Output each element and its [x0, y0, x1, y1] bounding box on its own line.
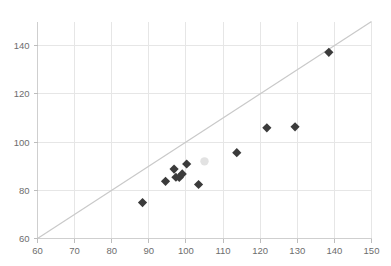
x-tick-label: 110	[215, 245, 230, 256]
identity-reference-line	[38, 22, 372, 239]
y-axis-tick-labels: 6080100120140	[14, 40, 30, 244]
plot-canvas: 60708090100110120130140150 6080100120140	[0, 0, 391, 266]
x-tick-label: 80	[106, 245, 117, 256]
x-tick-label: 150	[364, 245, 380, 256]
y-tick-label: 100	[14, 137, 30, 148]
y-tick-label: 60	[19, 233, 30, 244]
data-point-marker	[169, 164, 178, 173]
x-tick-label: 90	[144, 245, 155, 256]
x-tick-label: 120	[252, 245, 268, 256]
x-tick-label: 100	[178, 245, 194, 256]
data-point-marker	[324, 48, 333, 57]
data-point-marker	[232, 148, 241, 157]
data-point-marker	[290, 122, 299, 131]
data-point-marker	[161, 177, 170, 186]
reference-line-group	[38, 22, 372, 239]
y-tick-label: 80	[19, 185, 30, 196]
y-tick-label: 120	[14, 88, 30, 99]
data-point-marker	[194, 180, 203, 189]
x-tick-label: 140	[326, 245, 342, 256]
data-points-group	[138, 48, 333, 207]
tickmarks-group	[34, 46, 372, 243]
x-tick-label: 130	[289, 245, 305, 256]
y-tick-label: 140	[14, 40, 30, 51]
data-point-marker	[262, 123, 271, 132]
x-tick-label: 70	[69, 245, 80, 256]
scatter-chart: 60708090100110120130140150 6080100120140	[0, 0, 391, 266]
x-axis-tick-labels: 60708090100110120130140150	[32, 245, 379, 256]
data-point-marker	[200, 157, 208, 165]
data-point-marker	[182, 159, 191, 168]
x-tick-label: 60	[32, 245, 43, 256]
data-point-marker	[138, 198, 147, 207]
